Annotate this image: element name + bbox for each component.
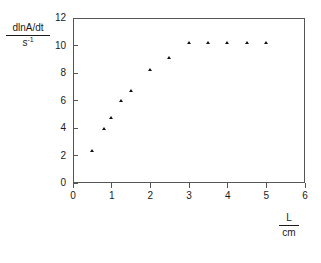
data-point: [119, 99, 123, 102]
x-axis-tick-label: 0: [63, 190, 83, 202]
x-axis-tick: [305, 183, 306, 188]
data-point: [225, 41, 229, 44]
x-axis-tick-label-text: 6: [295, 190, 315, 202]
y-axis-tick-label: 2: [42, 151, 66, 161]
data-point: [90, 149, 94, 152]
y-axis-tick-label-text: 0: [42, 178, 66, 188]
data-point: [109, 116, 113, 119]
x-axis-tick-label-text: 1: [102, 190, 122, 202]
x-axis-tick: [111, 183, 112, 188]
x-axis-tick-label-text: 5: [256, 190, 276, 202]
chart-figure: dlnA/dt s-1 0246810120123456 L cm: [0, 0, 321, 263]
data-point: [102, 127, 106, 130]
y-axis-tick-label-text: 4: [42, 123, 66, 133]
data-point: [167, 56, 171, 59]
y-axis-tick-label-text: 8: [42, 68, 66, 78]
y-axis-tick-label: 4: [42, 123, 66, 133]
x-axis-tick-label: 2: [140, 190, 160, 202]
y-axis-tick-label-text: 2: [42, 151, 66, 161]
y-axis-unit-exponent: -1: [27, 36, 33, 43]
y-axis-tick-label: 10: [42, 41, 66, 51]
y-axis-tick: [73, 100, 78, 101]
y-axis-tick-label: 0: [42, 178, 66, 188]
x-axis-tick-label: 6: [295, 190, 315, 202]
x-axis-tick-label-text: 4: [218, 190, 238, 202]
x-axis-tick: [189, 183, 190, 188]
x-axis-tick-label-text: 3: [179, 190, 199, 202]
y-axis-tick-label: 8: [42, 68, 66, 78]
y-axis-tick-label-text: 10: [42, 41, 66, 51]
data-point: [245, 41, 249, 44]
data-point: [187, 41, 191, 44]
y-axis-tick: [73, 73, 78, 74]
y-axis-tick: [73, 183, 78, 184]
y-axis-tick-label-text: 6: [42, 96, 66, 106]
x-axis-tick-label: 1: [102, 190, 122, 202]
x-axis-tick-label: 4: [218, 190, 238, 202]
x-axis-tick: [266, 183, 267, 188]
y-axis-tick: [73, 18, 78, 19]
data-point: [148, 68, 152, 71]
x-axis-label-denominator: cm: [272, 227, 306, 239]
x-axis-tick-label-text: 2: [140, 190, 160, 202]
x-axis-tick: [73, 183, 74, 188]
data-point: [129, 89, 133, 92]
x-axis-tick-label: 3: [179, 190, 199, 202]
x-axis-label-numerator: L: [272, 212, 306, 224]
x-axis-tick: [227, 183, 228, 188]
y-axis-tick-label-text: 12: [42, 13, 66, 23]
data-point: [264, 41, 268, 44]
y-axis-label-numerator: dlnA/dt: [2, 22, 54, 34]
y-axis-tick-label: 6: [42, 96, 66, 106]
x-axis-tick-label-text: 0: [63, 190, 83, 202]
caption-strip: [0, 254, 321, 263]
data-point: [206, 41, 210, 44]
x-axis-tick: [150, 183, 151, 188]
y-axis-tick: [73, 128, 78, 129]
y-axis-tick-label: 12: [42, 13, 66, 23]
x-axis-tick-label: 5: [256, 190, 276, 202]
x-axis-label: L cm: [272, 212, 306, 239]
y-axis-tick: [73, 45, 78, 46]
x-axis-label-fraction-bar: [279, 225, 299, 226]
y-axis-tick: [73, 155, 78, 156]
